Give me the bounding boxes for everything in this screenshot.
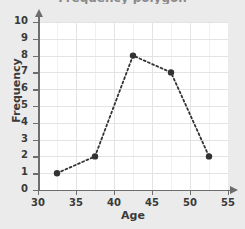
series-line: [57, 56, 209, 174]
frequency-polygon-chart: Frequency polygon 303540455055 012345678…: [0, 0, 245, 229]
data-point-marker: [54, 170, 60, 176]
data-point-marker: [130, 52, 136, 58]
data-point-marker: [92, 153, 98, 159]
data-point-marker: [168, 69, 174, 75]
data-point-marker: [206, 153, 212, 159]
series-markers: [54, 52, 212, 176]
y-axis-title: Frequency: [10, 46, 23, 136]
x-axis-title: Age: [38, 209, 228, 222]
series-layer: [0, 0, 245, 229]
